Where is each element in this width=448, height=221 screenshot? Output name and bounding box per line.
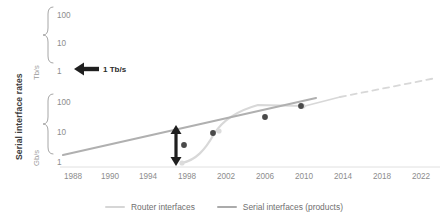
- series-serial-interfaces-trend: [63, 98, 316, 155]
- chart-legend: Router interfaces Serial interfaces (pro…: [0, 197, 448, 217]
- brace-tbps: [43, 7, 53, 63]
- legend-item-router-interfaces[interactable]: Router interfaces: [105, 202, 195, 212]
- annotation-left-arrow-icon: [74, 63, 99, 76]
- data-point-router-2002: [216, 128, 221, 133]
- brace-gbps: [43, 94, 53, 154]
- legend-item-serial-interfaces[interactable]: Serial interfaces (products): [217, 202, 343, 212]
- legend-label-serial-interfaces: Serial interfaces (products): [243, 202, 343, 212]
- series-router-interfaces-dashed-extension: [340, 78, 436, 97]
- data-point-router-1998: [179, 160, 184, 165]
- data-point-serial-2006: [262, 114, 268, 120]
- data-point-serial-1998: [181, 142, 187, 148]
- legend-label-router-interfaces: Router interfaces: [131, 202, 195, 212]
- legend-swatch-serial-interfaces: [217, 206, 237, 208]
- data-point-serial-2001: [210, 130, 216, 136]
- data-point-serial-2010: [298, 103, 304, 109]
- chart-svg: [0, 0, 448, 221]
- legend-swatch-router-interfaces: [105, 206, 125, 208]
